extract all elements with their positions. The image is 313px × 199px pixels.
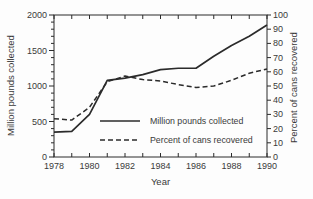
left-tick-label-0: 0 <box>42 152 47 162</box>
right-tick-label-40: 40 <box>273 95 283 105</box>
right-tick-label-10: 10 <box>273 138 283 148</box>
right-tick-label-80: 80 <box>273 38 283 48</box>
right-axis-title: Percent of cans recovered <box>288 32 299 143</box>
x-axis-title: Year <box>151 176 170 187</box>
left-tick-label-2000: 2000 <box>27 10 47 20</box>
x-tick-label-1990: 1990 <box>257 161 277 171</box>
right-tick-label-70: 70 <box>273 53 283 63</box>
x-tick-label-1986: 1986 <box>186 161 206 171</box>
right-tick-label-0: 0 <box>273 152 278 162</box>
right-tick-label-50: 50 <box>273 81 283 91</box>
left-tick-label-1500: 1500 <box>27 46 47 56</box>
x-tick-label-1984: 1984 <box>150 161 170 171</box>
x-tick-label-1978: 1978 <box>44 161 64 171</box>
right-tick-label-30: 30 <box>273 109 283 119</box>
x-tick-label-1980: 1980 <box>79 161 99 171</box>
right-tick-label-90: 90 <box>273 24 283 34</box>
line-chart: 1978198019821984198619881990Year05001000… <box>0 0 313 199</box>
left-tick-label-1000: 1000 <box>27 81 47 91</box>
recycling-trend-figure: 1978198019821984198619881990Year05001000… <box>0 0 313 199</box>
x-tick-label-1982: 1982 <box>115 161 135 171</box>
left-tick-label-500: 500 <box>32 117 47 127</box>
right-tick-label-60: 60 <box>273 67 283 77</box>
x-tick-label-1988: 1988 <box>221 161 241 171</box>
left-axis-title: Million pounds collected <box>5 35 16 136</box>
series-line-percent-recovered <box>54 69 267 120</box>
legend-label-percent-recovered: Percent of cans recovered <box>150 135 253 145</box>
right-tick-label-100: 100 <box>273 10 288 20</box>
right-tick-label-20: 20 <box>273 124 283 134</box>
legend-label-pounds-collected: Million pounds collected <box>150 116 244 126</box>
